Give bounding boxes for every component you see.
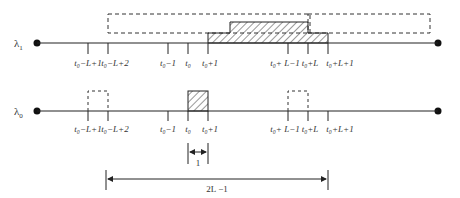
unit-width-dimension: 1 xyxy=(188,143,208,168)
lambda0-right-dashed-box xyxy=(288,91,308,111)
tick-label: t₀−L+1 xyxy=(74,124,101,134)
tick-label: t₀+L+1 xyxy=(326,58,353,68)
tick-label: t₀+ L−1 xyxy=(270,58,300,68)
tick-label: t₀−1 xyxy=(160,58,176,68)
tick-label: t₀ xyxy=(185,124,191,134)
lambda1-label: λ1 xyxy=(14,37,23,52)
tick-label: t₀+L xyxy=(302,58,319,68)
window-width-label: 2L −1 xyxy=(206,184,228,194)
tick-label: t₀+1 xyxy=(202,58,218,68)
tick-label: t₀−1 xyxy=(160,124,176,134)
tick-label: t₀ xyxy=(185,58,191,68)
lambda1-ticks xyxy=(88,43,328,54)
upper-right-dashed-window xyxy=(308,14,430,33)
lambda0-tick-labels: t₀−L+1 t₀−L+2 t₀−1 t₀ t₀+1 t₀+ L−1 t₀+L … xyxy=(74,124,353,134)
window-width-dimension: 2L −1 xyxy=(106,170,328,194)
unit-width-label: 1 xyxy=(196,158,201,168)
tick-label: t₀−L+1 xyxy=(74,58,101,68)
tick-label: t₀+1 xyxy=(202,124,218,134)
tick-label: t₀+L xyxy=(302,124,319,134)
lambda0-label: λ0 xyxy=(14,105,23,120)
lambda0-hatched-box xyxy=(188,91,208,111)
lambda0-axis: λ0 xyxy=(14,105,442,120)
lambda0-ticks xyxy=(88,111,328,121)
lambda1-tick-labels: t₀−L+1 t₀−L+2 t₀−1 t₀ t₀+1 t₀+ L−1 t₀+L … xyxy=(74,58,353,68)
lambda0-left-dashed-box xyxy=(88,91,108,111)
tick-label: t₀+L+1 xyxy=(326,124,353,134)
timeline-diagram: λ1 t₀−L+1 t₀−L+2 t₀−1 t₀ t₀+1 t₀+ L−1 t₀… xyxy=(0,0,460,198)
tick-label: t₀−L+2 xyxy=(101,124,129,134)
tick-label: t₀+ L−1 xyxy=(270,124,300,134)
tick-label: t₀−L+2 xyxy=(101,58,129,68)
